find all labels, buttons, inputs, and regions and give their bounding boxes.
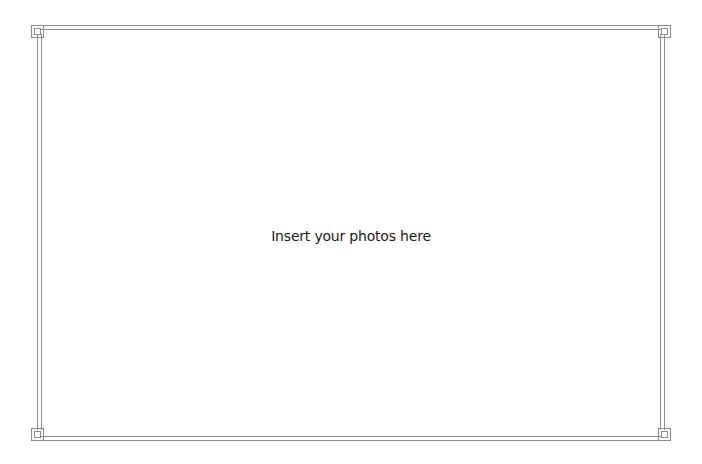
corner-ornament-bottom-left <box>32 426 47 441</box>
photo-placeholder-text: Insert your photos here <box>0 228 702 244</box>
corner-ornament-top-left <box>32 26 47 41</box>
corner-ornament-bottom-right <box>656 426 671 441</box>
corner-ornament-top-right <box>656 26 671 41</box>
